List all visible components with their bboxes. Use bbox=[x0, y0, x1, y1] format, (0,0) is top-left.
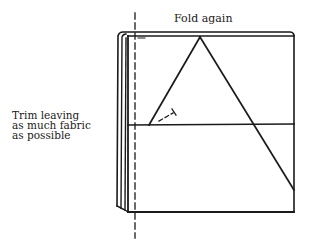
horizontal-fold-line bbox=[128, 124, 294, 125]
small-dashed-marker bbox=[159, 109, 176, 121]
triangle-fold-lines bbox=[149, 37, 294, 190]
fabric-layers bbox=[117, 32, 294, 212]
fabric-fold-diagram bbox=[0, 0, 311, 243]
